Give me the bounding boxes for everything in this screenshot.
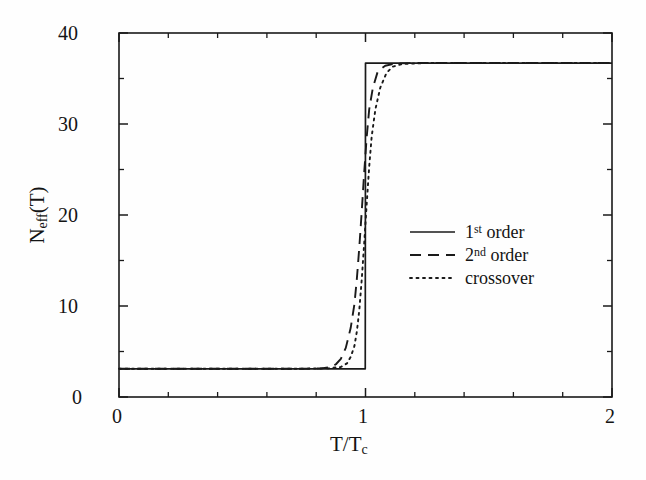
y-axis-title-tail: (T) — [25, 186, 49, 213]
y-axis-title-sub: eff — [35, 213, 50, 228]
legend-sample-lines — [410, 232, 455, 278]
x-tick-label-1: 1 — [358, 405, 368, 428]
x-axis-title-sub: c — [362, 442, 368, 457]
legend-item-2-word: order — [490, 245, 528, 265]
legend-item-crossover: crossover — [465, 268, 534, 289]
x-tick-label-2: 2 — [605, 405, 615, 428]
plot-area — [0, 0, 646, 480]
y-tick-label-20: 20 — [58, 204, 78, 227]
legend-item-1-number: 1 — [465, 222, 474, 242]
x-axis-title-main: T/T — [330, 432, 362, 456]
legend-item-1-word: order — [486, 222, 524, 242]
y-axis-title: Neff(T) — [18, 150, 58, 280]
x-axis-title: T/Tc — [330, 432, 368, 458]
legend-item-1-ordinal: st — [474, 222, 482, 236]
legend-item-1st-order: 1st order — [465, 222, 524, 243]
y-tick-label-40: 40 — [58, 22, 78, 45]
legend-item-2nd-order: 2nd order — [465, 245, 528, 266]
y-axis-title-main: N — [25, 228, 49, 243]
x-tick-label-0: 0 — [112, 405, 122, 428]
legend-item-2-number: 2 — [465, 245, 474, 265]
figure-canvas: 40 30 20 10 0 0 1 2 Neff(T) T/Tc 1st ord… — [0, 0, 646, 480]
y-tick-label-10: 10 — [58, 295, 78, 318]
y-tick-label-0: 0 — [72, 386, 82, 409]
legend-item-3-word: crossover — [465, 268, 534, 288]
data-series — [119, 63, 612, 369]
legend-item-2-ordinal: nd — [474, 245, 486, 259]
y-tick-label-30: 30 — [58, 113, 78, 136]
